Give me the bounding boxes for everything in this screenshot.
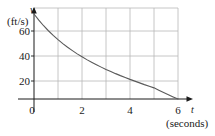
x-axis-arrowhead bbox=[187, 96, 194, 102]
x-axis-variable-label: t bbox=[191, 105, 194, 115]
velocity-time-graph-figure: v (ft/s) t (seconds) 60 40 20 0 2 4 6 bbox=[0, 0, 215, 136]
x-tick-label-6: 6 bbox=[173, 105, 183, 116]
y-tick-label-40: 40 bbox=[16, 51, 30, 62]
grid-lines bbox=[34, 8, 178, 99]
x-tick-label-0: 0 bbox=[27, 105, 37, 116]
y-tick-label-60: 60 bbox=[16, 26, 30, 37]
y-tick-label-20: 20 bbox=[16, 76, 30, 87]
y-axis-variable-label: v bbox=[30, 5, 34, 15]
axes-lines bbox=[18, 12, 189, 112]
x-tick-label-4: 4 bbox=[125, 105, 135, 116]
x-tick-label-2: 2 bbox=[77, 105, 87, 116]
x-axis-unit-label: (seconds) bbox=[166, 118, 208, 129]
